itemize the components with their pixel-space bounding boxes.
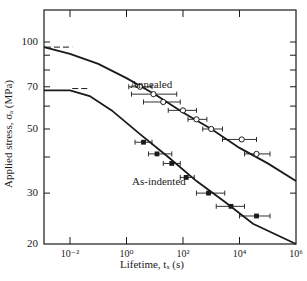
- x-tick-label: 10⁻²: [55, 248, 85, 259]
- y-tick-label: 50: [10, 122, 38, 134]
- open-circle-marker: [254, 151, 259, 156]
- filled-square-marker: [155, 152, 160, 157]
- y-tick-label: 20: [10, 237, 38, 249]
- open-circle-marker: [194, 117, 199, 122]
- open-circle-marker: [161, 99, 166, 104]
- y-tick-label: 70: [10, 80, 38, 92]
- data-points: [129, 84, 270, 218]
- open-circle-marker: [209, 126, 214, 131]
- series-label-annealed: Annealed: [130, 78, 172, 90]
- filled-square-marker: [229, 204, 234, 209]
- open-circle-marker: [239, 137, 244, 142]
- filled-square-marker: [169, 161, 174, 166]
- series-label-as-indented: As-indented: [132, 175, 186, 187]
- curve-as-indented: [44, 90, 296, 244]
- filled-square-marker: [254, 214, 259, 219]
- open-circle-marker: [151, 92, 156, 97]
- plot-frame: [44, 10, 296, 244]
- x-axis-title: Lifetime, tₓ (s): [120, 258, 184, 270]
- curve-annealed: [44, 47, 296, 181]
- x-tick-label: 10⁶: [281, 248, 307, 259]
- y-tick-label: 30: [10, 186, 38, 198]
- axis-ticks: [44, 10, 296, 244]
- x-tick-label: 10⁴: [225, 248, 255, 259]
- filled-square-marker: [141, 140, 146, 145]
- filled-square-marker: [206, 191, 211, 196]
- chart-canvas: [0, 0, 307, 281]
- open-circle-marker: [180, 108, 185, 113]
- y-tick-label: 100: [10, 35, 38, 47]
- y-axis-title: Applied stress, σₐ (MPa): [2, 64, 14, 204]
